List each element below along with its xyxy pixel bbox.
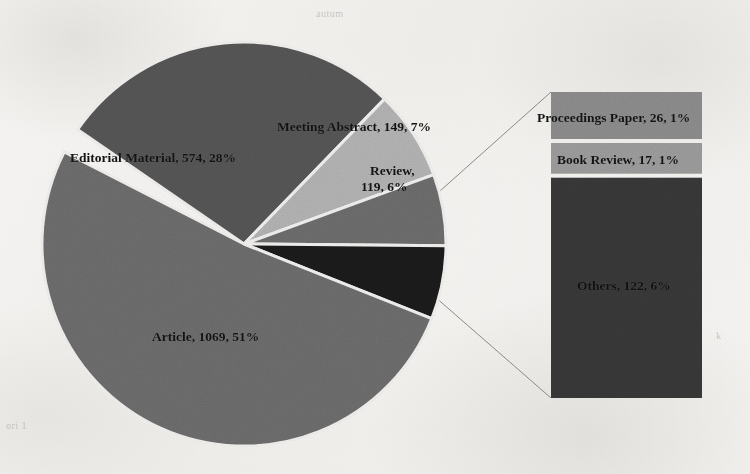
pie-label-editorial-material: Editorial Material, 574, 28% [70,150,236,165]
connector-lines [434,92,551,398]
bar-label-others: Others, 122, 6% [577,278,671,293]
pie-of-bar-chart [0,0,750,474]
pie-label-review-line1: Review, [370,163,415,178]
pie [42,42,446,446]
secondary-bar [551,92,702,398]
pie-label-meeting-abstract: Meeting Abstract, 149, 7% [277,119,431,134]
pie-label-review-line2: 119, 6% [361,179,408,194]
figure-canvas: Editorial Material, 574, 28% Meeting Abs… [0,0,750,474]
bar-label-proceedings-paper: Proceedings Paper, 26, 1% [537,110,690,125]
pie-label-article: Article, 1069, 51% [152,329,259,344]
connector-line-bottom [434,296,551,398]
connector-line-top [440,92,551,191]
bar-label-book-review: Book Review, 17, 1% [557,152,679,167]
